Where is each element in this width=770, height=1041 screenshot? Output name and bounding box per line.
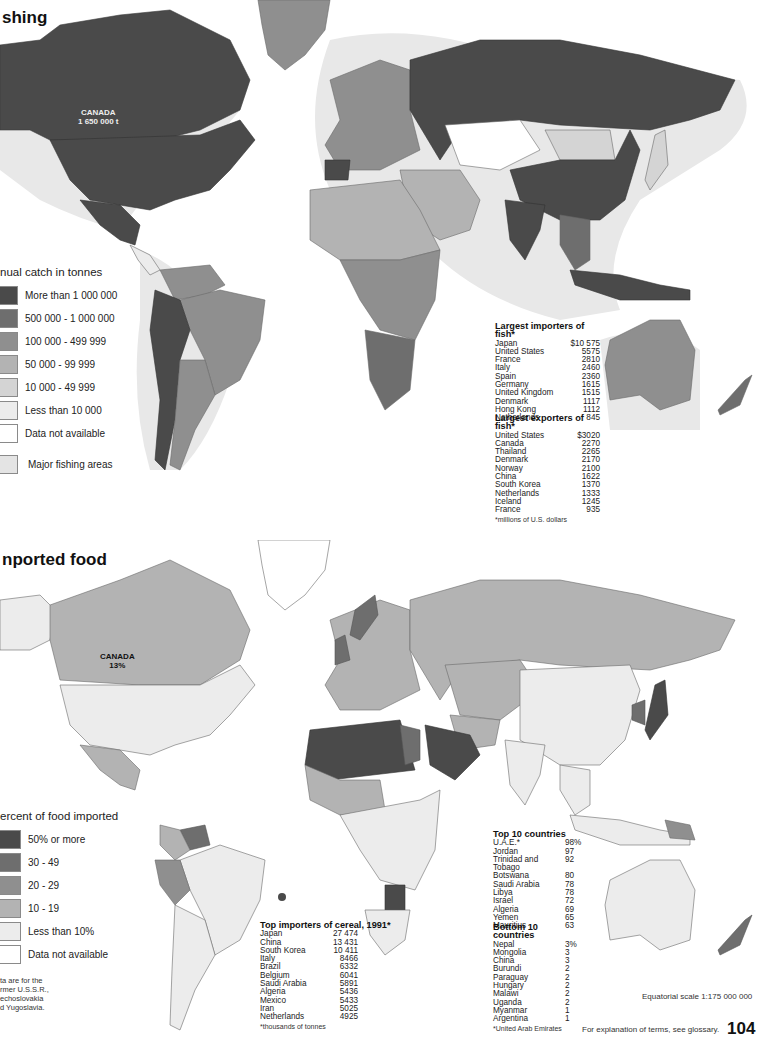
value: 4925 <box>340 1013 358 1021</box>
legend-label: Major fishing areas <box>28 459 112 470</box>
legend-label: 500 000 - 1 000 000 <box>25 313 115 324</box>
cereal-importers-table: Top importers of cereal, 1991* Japan27 4… <box>260 921 358 1031</box>
india <box>505 740 545 805</box>
legend-label: 50% or more <box>28 834 85 845</box>
legend-item-fishing-areas: Major fishing areas <box>0 453 117 476</box>
legend-title: ercent of food imported <box>0 810 118 822</box>
papua-new-guinea <box>665 820 695 840</box>
table-title: Bottom 10 countries <box>493 923 581 940</box>
alaska <box>0 595 55 650</box>
legend-item: Data not available <box>0 422 117 445</box>
value: 935 <box>586 506 600 514</box>
greenland <box>258 540 330 610</box>
legend-item: 100 000 - 499 999 <box>0 330 117 353</box>
swatch <box>0 455 18 474</box>
top10-table: Top 10 countries U.A.E.*98% Jordan97 Tri… <box>493 830 581 931</box>
table-title: Top importers of cereal, 1991* <box>260 921 358 929</box>
table-row: Argentina1 <box>493 1015 581 1023</box>
europe <box>325 60 420 170</box>
country: Argentina <box>493 1015 565 1023</box>
footnote: *United Arab Emirates <box>493 1025 581 1033</box>
mauritius-marker <box>278 893 286 901</box>
greenland <box>258 0 330 70</box>
table-row: Trinidad and Tobago92 <box>493 856 581 873</box>
swatch <box>0 286 18 305</box>
canada-fishing-label: CANADA 1 650 000 t <box>78 108 118 126</box>
canada-region <box>0 10 250 140</box>
bottom10-table: Bottom 10 countries Nepal3% Mongolia3 Ch… <box>493 923 581 1033</box>
country: Netherlands <box>260 1013 340 1021</box>
swatch <box>0 945 21 964</box>
swatch <box>0 401 18 420</box>
legend-item: Data not available <box>0 943 118 966</box>
legend-item: More than 1 000 000 <box>0 284 117 307</box>
legend-label: 10 - 19 <box>28 903 59 914</box>
swatch <box>0 355 18 374</box>
japan <box>645 680 668 740</box>
canada-catch-value: 1 650 000 t <box>78 117 118 126</box>
glossary-note: For explanation of terms, see glossary. <box>582 1025 719 1034</box>
legend-label: Less than 10 000 <box>25 405 102 416</box>
spain <box>325 160 350 180</box>
table-title: Largest exporters of fish* <box>495 414 600 431</box>
swatch <box>0 332 18 351</box>
fishing-title: shing <box>2 8 47 28</box>
note-line: d Yugoslavia. <box>0 1003 49 1012</box>
legend-label: 10 000 - 49 999 <box>25 382 95 393</box>
table-row: Netherlands4925 <box>260 1013 358 1021</box>
botswana <box>385 885 405 910</box>
australia <box>605 860 695 950</box>
fish-importers-table: Largest importers of fish* Japan$10 575 … <box>495 322 600 423</box>
new-zealand <box>718 915 752 955</box>
data-note: ta are for the rmer U.S.S.R., echoslovak… <box>0 976 49 1012</box>
country: France <box>495 506 586 514</box>
north-africa <box>305 720 415 780</box>
legend-label: 50 000 - 99 999 <box>25 359 95 370</box>
page-number: 104 <box>727 1019 755 1039</box>
note-line: ta are for the <box>0 976 49 985</box>
legend-label: Data not available <box>28 949 108 960</box>
note-line: echoslovakia <box>0 994 49 1003</box>
swatch <box>0 378 18 397</box>
food-legend: ercent of food imported 50% or more 30 -… <box>0 810 118 966</box>
footnote: *millions of U.S. dollars <box>495 516 600 524</box>
legend-item: 10 000 - 49 999 <box>0 376 117 399</box>
australia <box>605 320 695 410</box>
legend-item: 50 000 - 99 999 <box>0 353 117 376</box>
imported-food-title: nported food <box>2 550 107 570</box>
swatch <box>0 309 18 328</box>
legend-label: 100 000 - 499 999 <box>25 336 106 347</box>
footnote: *thousands of tonnes <box>260 1023 358 1031</box>
legend-label: Less than 10% <box>28 926 94 937</box>
legend-item: 50% or more <box>0 828 118 851</box>
legend-item: 10 - 19 <box>0 897 118 920</box>
swatch <box>0 830 21 849</box>
swatch <box>0 853 21 872</box>
map-scale: Equatorial scale 1:175 000 000 <box>642 992 752 1001</box>
swatch <box>0 922 21 941</box>
country: Trinidad and Tobago <box>493 856 565 873</box>
legend-item: Less than 10% <box>0 920 118 943</box>
legend-label: Data not available <box>25 428 105 439</box>
value: 1 <box>565 1015 581 1023</box>
legend-label: 20 - 29 <box>28 880 59 891</box>
note-line: rmer U.S.S.R., <box>0 985 49 994</box>
legend-item: 500 000 - 1 000 000 <box>0 307 117 330</box>
table-title: Largest importers of fish* <box>495 322 600 339</box>
swatch <box>0 899 21 918</box>
southern-africa <box>365 910 410 955</box>
canada-name: CANADA <box>100 652 135 661</box>
fish-exporters-table: Largest exporters of fish* United States… <box>495 414 600 524</box>
canada-food-label: CANADA 13% <box>100 652 135 670</box>
canada-name: CANADA <box>78 108 118 117</box>
new-zealand <box>718 375 752 415</box>
table-title: Top 10 countries <box>493 830 581 838</box>
legend-title: nual catch in tonnes <box>0 266 117 278</box>
se-asia <box>560 765 590 815</box>
value: 92 <box>565 856 581 873</box>
legend-label: More than 1 000 000 <box>25 290 117 301</box>
table-row: France935 <box>495 506 600 514</box>
legend-item: 30 - 49 <box>0 851 118 874</box>
africa-south <box>365 330 415 410</box>
legend-item: 20 - 29 <box>0 874 118 897</box>
